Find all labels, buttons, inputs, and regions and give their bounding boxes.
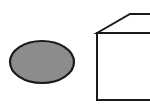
- gray-ellipse: [10, 41, 74, 83]
- cube-front-face: [97, 33, 150, 100]
- cube-top-face: [97, 14, 150, 33]
- diagram-canvas: [0, 0, 150, 112]
- cube: [97, 14, 150, 100]
